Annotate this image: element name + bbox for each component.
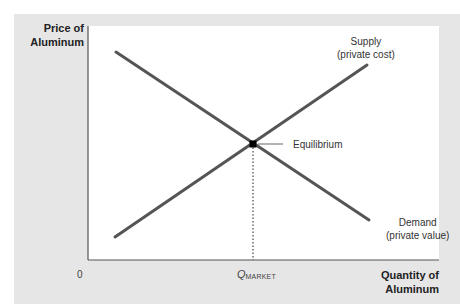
equilibrium-label: Equilibrium xyxy=(293,138,342,151)
y-axis-label-line1: Price of xyxy=(30,21,84,35)
supply-label-line2: (private cost) xyxy=(337,48,395,61)
q-market-symbol: Q xyxy=(237,268,246,280)
supply-label-line1: Supply xyxy=(337,35,395,48)
y-axis-label: Price of Aluminum xyxy=(30,21,84,49)
demand-label: Demand (private value) xyxy=(386,216,449,242)
equilibrium-point xyxy=(250,141,257,148)
supply-label: Supply (private cost) xyxy=(337,35,395,61)
q-market-subscript: MARKET xyxy=(246,273,276,280)
x-axis-label: Quantity of Aluminum xyxy=(381,268,439,296)
origin-label: 0 xyxy=(77,269,83,280)
x-axis-label-line2: Aluminum xyxy=(381,282,439,296)
q-market-label: QMARKET xyxy=(237,268,276,280)
demand-label-line1: Demand xyxy=(386,216,449,229)
demand-label-line2: (private value) xyxy=(386,229,449,242)
y-axis-label-line2: Aluminum xyxy=(30,35,84,49)
x-axis-label-line1: Quantity of xyxy=(381,268,439,282)
